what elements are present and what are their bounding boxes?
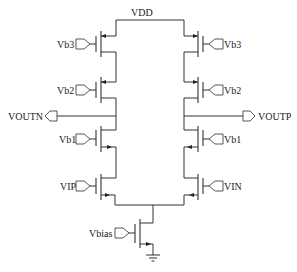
transistor-left-vb3: Vb3 bbox=[57, 31, 116, 79]
transistor-input-vip: VIP bbox=[60, 174, 184, 205]
label-right-vb3: Vb3 bbox=[224, 39, 241, 50]
pin-left-vb2 bbox=[76, 85, 90, 95]
vdd-label: VDD bbox=[131, 7, 153, 18]
label-vin: VIN bbox=[224, 181, 242, 192]
ground-icon bbox=[146, 255, 160, 261]
pin-right-vb2 bbox=[209, 85, 223, 95]
pin-voutn bbox=[45, 111, 57, 121]
label-left-vb1: Vb1 bbox=[59, 134, 76, 145]
transistor-tail-vbias: Vbias bbox=[89, 205, 153, 255]
label-voutn: VOUTN bbox=[8, 111, 43, 122]
pin-left-vb3 bbox=[76, 39, 90, 49]
pin-left-vb1 bbox=[76, 134, 90, 144]
pin-right-vb3 bbox=[209, 39, 223, 49]
pin-vin bbox=[209, 181, 223, 191]
transistor-left-vb1: Vb1 bbox=[59, 126, 116, 178]
transistor-input-vin: VIN bbox=[184, 174, 242, 200]
label-voutp: VOUTP bbox=[258, 111, 292, 122]
vdd-rail bbox=[116, 20, 184, 34]
pin-vip bbox=[76, 181, 90, 191]
transistor-right-vb1: Vb1 bbox=[184, 126, 241, 178]
transistor-right-vb3: Vb3 bbox=[184, 31, 241, 79]
label-right-vb1: Vb1 bbox=[224, 134, 241, 145]
transistor-left-vb2: Vb2 bbox=[57, 77, 116, 130]
label-left-vb3: Vb3 bbox=[57, 39, 74, 50]
pin-voutp bbox=[243, 111, 255, 121]
label-left-vb2: Vb2 bbox=[57, 85, 74, 96]
label-right-vb2: Vb2 bbox=[224, 85, 241, 96]
label-vip: VIP bbox=[60, 181, 77, 192]
label-vbias: Vbias bbox=[89, 228, 112, 239]
circuit-schematic: VDD Vb3 Vb2 VOUTN Vb1 bbox=[0, 0, 297, 272]
transistor-right-vb2: Vb2 bbox=[184, 77, 241, 130]
pin-right-vb1 bbox=[209, 134, 223, 144]
pin-vbias bbox=[115, 228, 129, 238]
